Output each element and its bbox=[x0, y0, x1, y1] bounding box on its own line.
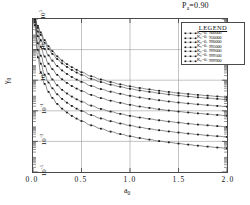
x-tick-label: 2.0 bbox=[222, 175, 235, 184]
legend-marker-icon bbox=[184, 59, 197, 64]
y-tick-label: 10-5 bbox=[39, 165, 48, 176]
x-tick-label: 1.0 bbox=[124, 175, 137, 184]
y-axis-label-subscript: 0 bbox=[6, 78, 12, 81]
y-tick-label: 105 bbox=[38, 10, 47, 20]
y-axis-title: γ0 bbox=[2, 78, 12, 84]
legend-item-value: 999900 bbox=[209, 59, 222, 64]
legend: LEGEND Kc=0.900000Kc=0.950000Kc=0.990000… bbox=[181, 22, 245, 65]
plot-annotation: Pa=0.90 bbox=[182, 1, 209, 11]
y-tick-label: 101 bbox=[38, 72, 47, 82]
x-tick-label: 1.5 bbox=[173, 175, 186, 184]
x-tick-label: 0.5 bbox=[75, 175, 88, 184]
y-tick-label: 10-3 bbox=[39, 134, 48, 145]
x-axis-title: a0 bbox=[124, 186, 130, 196]
legend-entry-list: Kc=0.900000Kc=0.950000Kc=0.990000Kc=0.99… bbox=[184, 31, 242, 63]
legend-item: Kc=0.999900 bbox=[184, 59, 242, 64]
y-tick-label: 103 bbox=[38, 41, 47, 51]
legend-item-label: Kc=0. bbox=[197, 58, 207, 64]
chart-figure: Pa=0.90 γ0 a0 0.00.51.01.52.010510310110… bbox=[0, 0, 250, 205]
annotation-value: =0.90 bbox=[189, 1, 209, 10]
x-tick-label: 0.0 bbox=[26, 175, 39, 184]
y-tick-label: 10-1 bbox=[39, 103, 48, 114]
y-axis-label-symbol: γ bbox=[2, 80, 11, 84]
x-axis-label-subscript: 0 bbox=[128, 190, 131, 196]
